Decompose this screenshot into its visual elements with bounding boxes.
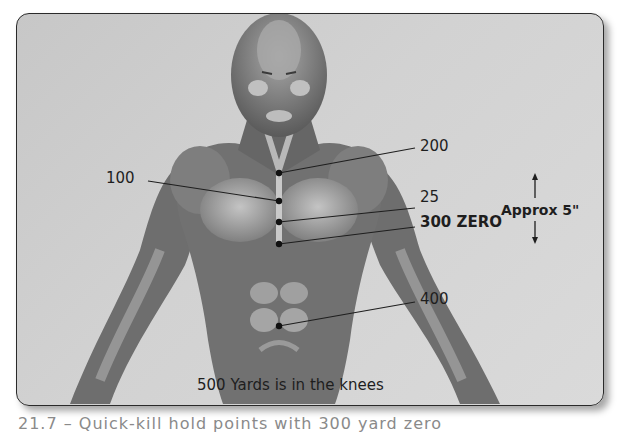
right-pectoral <box>278 178 358 242</box>
left-pectoral <box>200 178 280 242</box>
label-100: 100 <box>106 171 135 186</box>
hold-point-100 <box>276 198 282 204</box>
label-500-yards-knees: 500 Yards is in the knees <box>197 378 384 393</box>
figure-caption: 21.7 – Quick-kill hold points with 300 y… <box>18 414 442 433</box>
label-400: 400 <box>420 292 449 307</box>
hold-point-25 <box>276 219 282 225</box>
label-approx-5-inches: Approx 5" <box>501 203 579 217</box>
hold-point-300-zero <box>276 241 282 247</box>
label-200: 200 <box>420 139 449 154</box>
label-25: 25 <box>420 190 439 205</box>
hold-point-200 <box>276 170 282 176</box>
label-300-zero: 300 ZERO <box>420 215 502 230</box>
hold-point-400 <box>276 323 282 329</box>
